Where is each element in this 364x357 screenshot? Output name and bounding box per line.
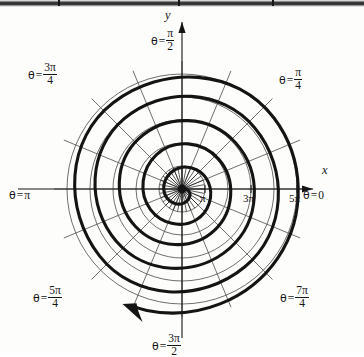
fraction: 7π4: [295, 285, 309, 309]
angle-label-theta-7pi-4: θ=7π4: [280, 285, 309, 309]
x-tick-label-5pi: 5π: [289, 192, 300, 204]
x-axis-label: x: [322, 163, 328, 178]
fraction-numerator: 5π: [48, 285, 62, 297]
equals-symbol: =: [41, 292, 48, 304]
equals-symbol: =: [160, 340, 167, 352]
spiral-arrowhead: [123, 303, 143, 322]
equals-symbol: =: [287, 74, 294, 86]
fraction: 3π2: [167, 333, 181, 357]
fraction-numerator: π: [294, 67, 302, 79]
theta-symbol: θ: [151, 35, 158, 48]
angle-value: π: [24, 189, 30, 201]
y-axis-arrowhead: [178, 22, 185, 33]
equals-symbol: =: [159, 35, 166, 47]
fraction-numerator: π: [166, 28, 174, 40]
fraction-denominator: 2: [167, 345, 181, 357]
equals-symbol: =: [288, 292, 295, 304]
fraction-denominator: 4: [294, 79, 302, 92]
fraction: π2: [166, 28, 174, 52]
angle-label-theta-5pi-4: θ=5π4: [33, 285, 62, 309]
angle-label-theta-3pi-2: θ=3π2: [152, 333, 181, 357]
equals-symbol: =: [17, 189, 24, 201]
angle-label-theta-3pi-4: θ=3π4: [28, 62, 57, 86]
theta-symbol: θ: [152, 340, 159, 353]
angle-label-theta-pi-4: θ=π4: [279, 67, 302, 91]
fraction-denominator: 4: [48, 297, 62, 310]
fraction-denominator: 4: [295, 297, 309, 310]
angle-value: 0: [318, 189, 324, 201]
fraction-numerator: 7π: [295, 285, 309, 297]
fraction-numerator: 3π: [167, 333, 181, 345]
theta-symbol: θ: [9, 189, 16, 202]
theta-symbol: θ: [33, 292, 40, 305]
fraction-numerator: 3π: [43, 62, 57, 74]
angle-label-theta-pi-2: θ=π2: [151, 28, 174, 52]
fraction-denominator: 4: [43, 74, 57, 87]
fraction: π4: [294, 67, 302, 91]
equals-symbol: =: [311, 189, 318, 201]
y-axis-label: y: [165, 8, 171, 23]
origin-point: [178, 185, 187, 194]
angle-label-theta-0: θ=0: [303, 190, 324, 202]
theta-symbol: θ: [28, 69, 35, 82]
x-tick-label-3pi: 3π: [243, 192, 254, 204]
angle-label-theta-pi: θ=π: [9, 190, 30, 202]
theta-symbol: θ: [279, 74, 286, 87]
fraction: 3π4: [43, 62, 57, 86]
fraction: 5π4: [48, 285, 62, 309]
theta-symbol: θ: [303, 189, 310, 202]
equals-symbol: =: [36, 69, 43, 81]
fraction-denominator: 2: [166, 40, 174, 53]
x-tick-label-pi: π: [200, 192, 206, 204]
theta-symbol: θ: [280, 292, 287, 305]
